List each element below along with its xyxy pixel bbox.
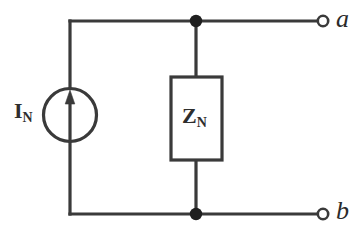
terminal-circle-b[interactable] [318, 209, 328, 219]
norton-equivalent-circuit-figure: IN ZN a b [0, 0, 363, 240]
circuit-schematic [0, 0, 363, 240]
impedance-box-outline [171, 77, 222, 160]
junction-dot-top [190, 15, 202, 27]
terminal-circle-a[interactable] [318, 16, 328, 26]
junction-dot-bottom [190, 208, 202, 220]
